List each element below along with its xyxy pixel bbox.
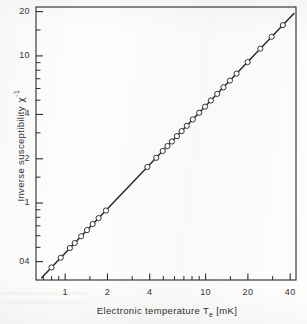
x-tick-label: 20 <box>234 288 262 297</box>
x-axis-ticks <box>43 274 290 281</box>
y-axis-ticks <box>36 12 43 262</box>
x-tick-label: 10 <box>192 288 220 297</box>
x-tick-label: 2 <box>93 288 121 297</box>
x-tick-label: 40 <box>276 288 304 297</box>
y-tick-label: 04 <box>2 257 30 266</box>
y-tick-label: 20 <box>2 7 30 16</box>
y-axis-title: Inverse susceptibility χ-1 <box>15 41 26 251</box>
x-tick-label: 1 <box>51 288 79 297</box>
x-axis-title-text: Electronic temperature T <box>97 305 209 316</box>
x-axis-title: Electronic temperature Te [mK] <box>36 305 298 316</box>
chi-symbol: χ-1 <box>15 89 26 106</box>
x-axis-unit: [mK] <box>216 305 237 316</box>
chart-plot-area <box>0 0 307 324</box>
y-axis-title-text: Inverse susceptibility <box>15 106 26 201</box>
figure-screenshot: 201042104 124102040 Inverse susceptibili… <box>0 0 307 324</box>
x-axis-title-subscript: e <box>209 311 213 318</box>
x-tick-label: 4 <box>136 288 164 297</box>
chart-figure: 201042104 124102040 Inverse susceptibili… <box>0 0 307 324</box>
